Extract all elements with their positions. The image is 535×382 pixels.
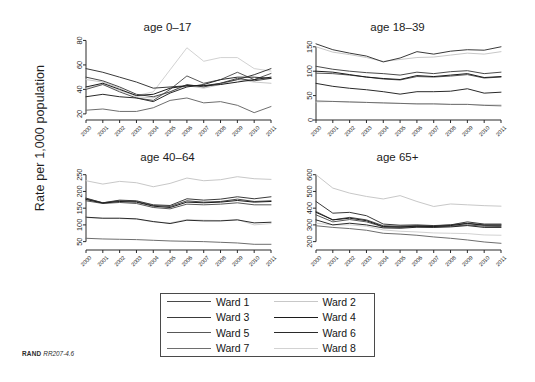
panel-title: age 65+ [290, 151, 505, 163]
y-axis-title: Rate per 1,000 population [33, 23, 47, 253]
legend-label: Ward 2 [323, 296, 356, 308]
svg-text:2004: 2004 [377, 124, 390, 137]
svg-text:2008: 2008 [214, 124, 227, 137]
svg-text:2004: 2004 [377, 254, 390, 267]
svg-text:2001: 2001 [326, 254, 339, 267]
legend-label: Ward 8 [323, 342, 356, 354]
legend-grid: Ward 1 Ward 2 Ward 3 Ward 4 Ward 5 Ward … [161, 294, 374, 356]
svg-text:2009: 2009 [461, 254, 474, 267]
legend-line-swatch [274, 317, 318, 318]
svg-text:2007: 2007 [427, 124, 440, 137]
svg-text:2002: 2002 [343, 254, 356, 267]
svg-text:50: 50 [306, 91, 315, 99]
svg-text:2001: 2001 [96, 254, 109, 267]
svg-text:2000: 2000 [79, 254, 92, 267]
svg-text:2008: 2008 [444, 124, 457, 137]
legend-line-swatch [167, 348, 211, 349]
panel-age-0-17: age 0–17 2040608020002001200220032004200… [60, 22, 275, 140]
line-plot-svg: 5010015020025020002001200220032004200520… [60, 164, 275, 270]
svg-text:200: 200 [76, 185, 85, 197]
legend-item-ward-5: Ward 5 [161, 327, 268, 339]
svg-text:2011: 2011 [495, 255, 508, 268]
svg-text:600: 600 [306, 169, 315, 181]
svg-text:60: 60 [76, 61, 85, 69]
svg-text:2001: 2001 [96, 124, 109, 137]
rand-report-number: RR207-4.6 [43, 350, 74, 357]
legend-item-ward-6: Ward 6 [268, 327, 375, 339]
svg-text:2007: 2007 [427, 254, 440, 267]
svg-text:2006: 2006 [410, 254, 423, 267]
plot-area: 0501001502000200120022003200420052006200… [290, 34, 505, 140]
figure-source-note: RANDRR207-4.6 [22, 350, 74, 357]
svg-text:0: 0 [306, 118, 315, 122]
svg-text:40: 40 [76, 85, 85, 93]
svg-text:2009: 2009 [231, 254, 244, 267]
svg-text:50: 50 [76, 238, 85, 246]
line-plot-svg: 2003004005006002000200120022003200420052… [290, 164, 505, 270]
svg-text:2004: 2004 [147, 124, 160, 137]
svg-text:150: 150 [306, 41, 315, 53]
line-plot-svg: 2040608020002001200220032004200520062007… [60, 34, 275, 140]
rand-brand: RAND [22, 350, 41, 357]
svg-text:2011: 2011 [265, 125, 278, 138]
svg-text:2009: 2009 [461, 124, 474, 137]
svg-text:2002: 2002 [113, 254, 126, 267]
legend-item-ward-2: Ward 2 [268, 296, 375, 308]
panel-title: age 0–17 [60, 21, 275, 33]
legend-item-ward-7: Ward 7 [161, 342, 268, 354]
svg-text:2002: 2002 [343, 124, 356, 137]
svg-text:2000: 2000 [309, 124, 322, 137]
svg-text:2003: 2003 [130, 124, 143, 137]
svg-text:2010: 2010 [248, 124, 261, 137]
panel-title: age 40–64 [60, 151, 275, 163]
svg-text:2003: 2003 [360, 124, 373, 137]
svg-text:2010: 2010 [248, 254, 261, 267]
svg-text:2008: 2008 [444, 254, 457, 267]
svg-text:2007: 2007 [197, 124, 210, 137]
legend-item-ward-1: Ward 1 [161, 296, 268, 308]
panel-age-65-plus: age 65+ 20030040050060020002001200220032… [290, 152, 505, 270]
legend-item-ward-4: Ward 4 [268, 311, 375, 323]
legend-line-swatch [167, 332, 211, 333]
svg-text:2005: 2005 [164, 124, 177, 137]
svg-text:2004: 2004 [147, 254, 160, 267]
svg-text:2005: 2005 [164, 254, 177, 267]
svg-text:500: 500 [306, 185, 315, 197]
svg-text:2005: 2005 [394, 124, 407, 137]
svg-text:80: 80 [76, 36, 85, 44]
plot-area: 2040608020002001200220032004200520062007… [60, 34, 275, 140]
legend-line-swatch [274, 332, 318, 333]
legend-item-ward-3: Ward 3 [161, 311, 268, 323]
legend-line-swatch [274, 348, 318, 349]
legend-line-swatch [167, 301, 211, 302]
svg-text:2000: 2000 [309, 254, 322, 267]
plot-area: 2003004005006002000200120022003200420052… [290, 164, 505, 270]
legend-label: Ward 5 [216, 327, 249, 339]
svg-text:2011: 2011 [265, 255, 278, 268]
legend-label: Ward 4 [323, 311, 356, 323]
line-plot-svg: 0501001502000200120022003200420052006200… [290, 34, 505, 140]
panel-title: age 18–39 [290, 21, 505, 33]
legend-box: Ward 1 Ward 2 Ward 3 Ward 4 Ward 5 Ward … [160, 293, 375, 357]
svg-text:300: 300 [306, 219, 315, 231]
svg-text:2007: 2007 [197, 254, 210, 267]
svg-text:100: 100 [306, 65, 315, 77]
legend-line-swatch [274, 301, 318, 302]
svg-text:150: 150 [76, 202, 85, 214]
legend-label: Ward 1 [216, 296, 249, 308]
svg-text:2002: 2002 [113, 124, 126, 137]
svg-text:2009: 2009 [231, 124, 244, 137]
svg-text:2006: 2006 [180, 124, 193, 137]
panel-age-40-64: age 40–64 501001502002502000200120022003… [60, 152, 275, 270]
legend-label: Ward 7 [216, 342, 249, 354]
svg-text:250: 250 [76, 169, 85, 181]
legend-label: Ward 6 [323, 327, 356, 339]
svg-text:2005: 2005 [394, 254, 407, 267]
plot-area: 5010015020025020002001200220032004200520… [60, 164, 275, 270]
svg-text:2010: 2010 [478, 124, 491, 137]
svg-text:2006: 2006 [410, 124, 423, 137]
legend-label: Ward 3 [216, 311, 249, 323]
svg-text:2003: 2003 [130, 254, 143, 267]
svg-text:2001: 2001 [326, 124, 339, 137]
figure-panel-grid: Rate per 1,000 population age 0–17 20406… [0, 0, 535, 382]
